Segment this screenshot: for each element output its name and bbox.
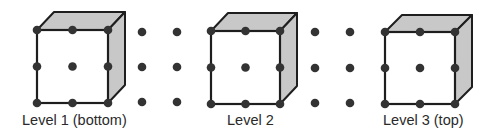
level-3-label: Level 3 (top) — [383, 111, 464, 129]
level-2-dot-r2c1 — [241, 100, 250, 109]
level-3-dot-r0c1 — [416, 28, 425, 37]
level-1-dot-r1c0 — [33, 62, 42, 71]
loose-dot-c0r1 — [138, 63, 147, 72]
level-2-dot-r1c2 — [276, 63, 285, 72]
loose-dot-c2r0 — [311, 28, 320, 37]
level-2-dot-r0c0 — [207, 27, 216, 36]
loose-dot-c1r1 — [173, 63, 182, 72]
loose-dot-c3r1 — [346, 64, 355, 73]
level-3-dot-r2c1 — [416, 100, 425, 109]
loose-dot-c3r2 — [346, 99, 355, 108]
level-1-dot-r2c1 — [68, 99, 77, 108]
level-1-dot-r1c2 — [104, 62, 113, 71]
loose-dot-c0r2 — [138, 98, 147, 107]
loose-dot-c1r2 — [173, 98, 182, 107]
level-2-dot-r0c2 — [276, 27, 285, 36]
level-3-dot-r2c0 — [381, 100, 390, 109]
level-2-label: Level 2 — [227, 111, 274, 129]
level-3-dot-r0c0 — [381, 28, 390, 37]
loose-dot-c0r0 — [138, 28, 147, 37]
level-1-dot-r1c1 — [68, 62, 77, 71]
level-1-dot-r0c1 — [68, 26, 77, 35]
level-1-dot-r0c0 — [33, 26, 42, 35]
level-1-label: Level 1 (bottom) — [22, 111, 127, 129]
level-1-dot-r2c2 — [104, 99, 113, 108]
level-2-dot-r1c0 — [207, 63, 216, 72]
level-1-dot-r2c0 — [33, 99, 42, 108]
level-3-dot-r1c1 — [416, 64, 425, 73]
level-3-dot-r1c2 — [451, 64, 460, 73]
level-2-dot-r0c1 — [241, 27, 250, 36]
loose-dot-c1r0 — [173, 28, 182, 37]
level-2-dot-r2c0 — [207, 100, 216, 109]
level-2-dot-r1c1 — [241, 63, 250, 72]
loose-dot-c2r1 — [311, 64, 320, 73]
level-1-dot-r0c2 — [104, 26, 113, 35]
level-3-dot-r1c0 — [381, 64, 390, 73]
loose-dot-c3r0 — [346, 28, 355, 37]
level-3-dot-r2c2 — [451, 100, 460, 109]
level-3-dot-r0c2 — [451, 28, 460, 37]
loose-dot-c2r2 — [311, 99, 320, 108]
level-2-dot-r2c2 — [276, 100, 285, 109]
level-3-right-face — [455, 15, 472, 104]
